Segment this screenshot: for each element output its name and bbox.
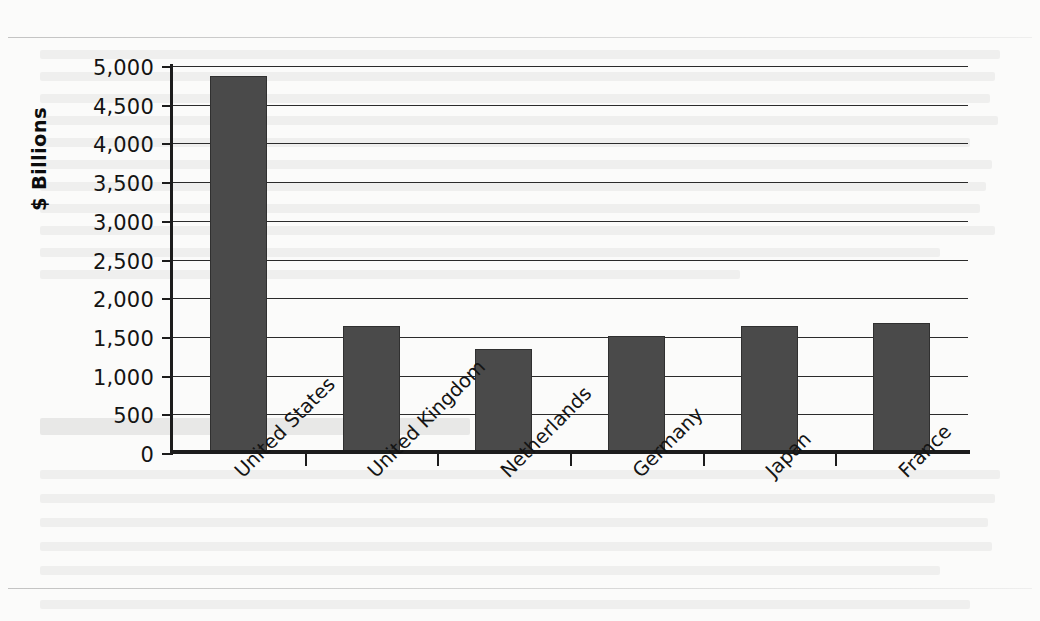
y-axis-title: $ Billions [28,107,51,211]
bar[interactable] [210,76,267,453]
y-axis-tick-label: 5,000 [93,56,154,80]
bar-chart: $ Billions 5,0004,5004,0003,5003,0002,50… [0,0,1040,621]
gridline [172,105,968,106]
gridline [172,221,968,222]
y-axis-tick-label: 3,000 [93,211,154,235]
gridline [172,260,968,261]
gridline [172,337,968,338]
gridline [172,66,968,67]
y-axis-tick-label: 1,000 [93,366,154,390]
y-axis-line [170,64,173,455]
x-axis-tick [703,454,705,466]
bar[interactable] [741,326,798,453]
bar[interactable] [343,326,400,453]
y-axis-tick-label: 3,500 [93,172,154,196]
gridline [172,376,968,377]
gridline [172,182,968,183]
y-axis-tick-label: 0 [140,443,154,467]
x-axis-tick [835,454,837,466]
y-axis-tick-label: 2,500 [93,250,154,274]
gridline [172,298,968,299]
y-axis-tick-label: 1,500 [93,327,154,351]
y-axis-tick-label: 500 [113,404,154,428]
y-axis-tick-label: 2,000 [93,288,154,312]
y-axis-tick-label: 4,000 [93,133,154,157]
y-axis-tick-label: 4,500 [93,95,154,119]
x-axis-tick [305,454,307,466]
bar[interactable] [873,323,930,453]
x-axis-tick [570,454,572,466]
x-axis-tick [437,454,439,466]
gridline [172,143,968,144]
bar[interactable] [608,336,665,453]
